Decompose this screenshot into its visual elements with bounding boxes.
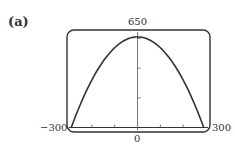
x-origin-label: 0: [134, 134, 140, 144]
graph-screen: [0, 0, 235, 147]
y-max-label: 650: [128, 17, 147, 27]
x-max-label: 300: [212, 123, 231, 133]
y-ticks: [138, 38, 141, 97]
screen-frame: [67, 30, 210, 132]
x-min-label: −300: [40, 123, 67, 133]
